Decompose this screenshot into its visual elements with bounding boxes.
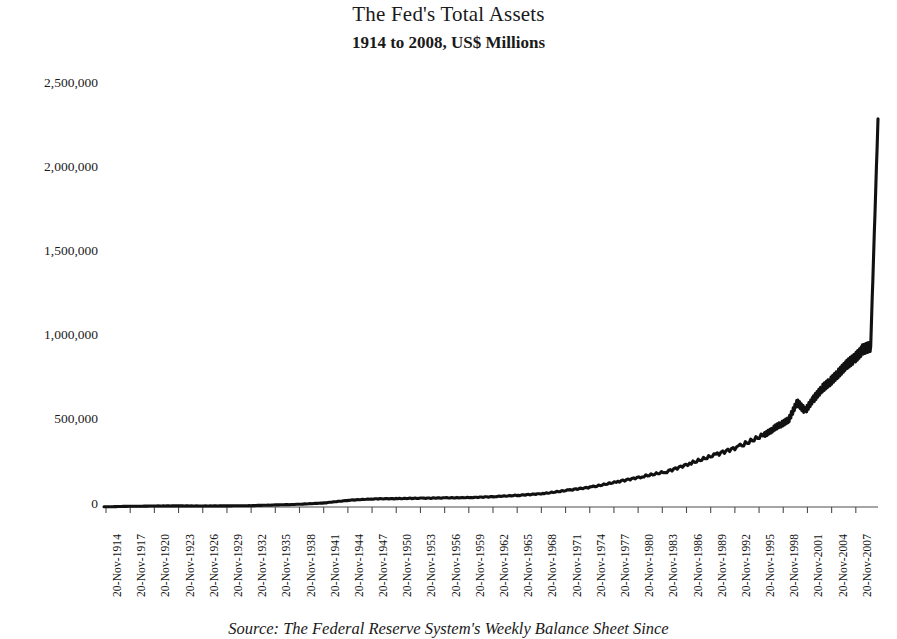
x-tick-label: 20-Nov-1980 xyxy=(643,534,655,597)
figure-caption: Source: The Federal Reserve System's Wee… xyxy=(0,619,897,639)
x-tick-label: 20-Nov-1950 xyxy=(401,534,413,597)
data-line xyxy=(104,119,878,507)
x-tick-label: 20-Nov-1944 xyxy=(353,534,365,597)
x-tick-label: 20-Nov-1995 xyxy=(764,534,776,597)
x-tick-label: 20-Nov-1986 xyxy=(692,534,704,597)
x-tick-label: 20-Nov-2001 xyxy=(812,534,824,597)
x-tick-label: 20-Nov-1935 xyxy=(280,534,292,597)
x-tick-label: 20-Nov-1926 xyxy=(208,534,220,597)
x-tick-label: 20-Nov-1968 xyxy=(546,534,558,597)
x-tick-label: 20-Nov-1923 xyxy=(184,534,196,597)
x-tick-label: 20-Nov-2004 xyxy=(837,534,849,597)
x-tick-label: 20-Nov-1962 xyxy=(498,534,510,597)
x-tick-label: 20-Nov-1983 xyxy=(667,534,679,597)
x-tick-label: 20-Nov-1965 xyxy=(522,534,534,597)
x-tick-label: 20-Nov-1998 xyxy=(788,534,800,597)
x-tick-label: 20-Nov-1917 xyxy=(135,534,147,597)
x-tick-label: 20-Nov-1956 xyxy=(450,534,462,597)
x-tick-label: 20-Nov-1953 xyxy=(425,534,437,597)
x-tick-label: 20-Nov-1977 xyxy=(619,534,631,597)
x-tick-label: 20-Nov-1941 xyxy=(329,534,341,597)
x-tick-label: 20-Nov-1938 xyxy=(305,534,317,597)
x-tick-label: 20-Nov-1932 xyxy=(256,534,268,597)
x-tick-label: 20-Nov-1989 xyxy=(716,534,728,597)
x-tick-label: 20-Nov-1992 xyxy=(740,534,752,597)
x-tick-label: 20-Nov-1974 xyxy=(595,534,607,597)
x-tick-label: 20-Nov-1929 xyxy=(232,534,244,597)
x-tick-label: 20-Nov-2007 xyxy=(861,534,873,597)
x-tick-label: 20-Nov-1914 xyxy=(111,534,123,597)
x-tick-label: 20-Nov-1959 xyxy=(474,534,486,597)
x-tick-label: 20-Nov-1920 xyxy=(159,534,171,597)
x-axis-ticks xyxy=(106,507,856,513)
x-tick-label: 20-Nov-1971 xyxy=(571,534,583,597)
x-tick-label: 20-Nov-1947 xyxy=(377,534,389,597)
